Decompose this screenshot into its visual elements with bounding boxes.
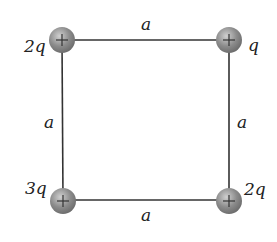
charge-label-bottom-left: 3q: [25, 178, 47, 198]
charge-label-top-left: 2q: [23, 36, 46, 56]
charge-bottom-left: [50, 188, 76, 214]
side-label-right: a: [237, 112, 247, 132]
charge-top-right: [216, 27, 242, 53]
charge-top-left: [49, 27, 75, 53]
charge-square-diagram: a a a a 2q q 3q 2q: [0, 0, 277, 242]
charge-label-bottom-right: 2q: [243, 179, 266, 199]
charge-label-top-right: q: [248, 35, 259, 55]
charge-bottom-right: [216, 188, 242, 214]
side-left: [62, 40, 63, 200]
side-label-bottom: a: [141, 205, 151, 225]
square-sides: [62, 40, 229, 200]
side-label-top: a: [141, 14, 151, 34]
side-label-left: a: [44, 112, 54, 132]
